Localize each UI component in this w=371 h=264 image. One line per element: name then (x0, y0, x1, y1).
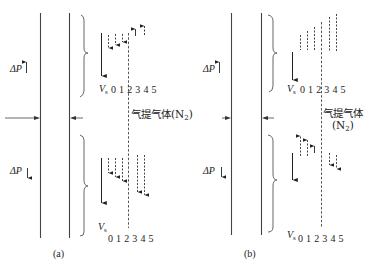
panel-b-caption: (b) (244, 249, 256, 259)
panel-a-upper-pressure-label: ΔP (10, 64, 22, 74)
panel-a-lower-velocity-label: Vs (98, 222, 107, 235)
panel-b-gas-formula: (N2) (332, 120, 354, 135)
panel-a-gas-label: 气提气体(N2) (131, 109, 193, 124)
panel-a-graphics (5, 13, 145, 238)
panel-b-upper-pressure-label: ΔP (203, 64, 215, 74)
panel-a-lower-pressure-label: ΔP (10, 166, 22, 176)
panel-b-upper-velocity-label: Vs (287, 84, 296, 97)
panel-b-lower-velocity-label: Vs (287, 230, 296, 243)
diagram-canvas (0, 0, 371, 264)
panel-a-upper-tick-labels: 0 1 2 3 4 5 (111, 85, 157, 95)
panel-a-upper-velocity-label: Vs (99, 84, 108, 97)
panel-a-caption: (a) (53, 249, 64, 259)
panel-b-lower-pressure-label: ΔP (203, 166, 215, 176)
panel-b-gas-label: 气提气体 (323, 108, 363, 119)
panel-b-lower-tick-labels: 0 1 2 3 4 5 (298, 234, 344, 244)
panel-b-graphics (220, 13, 337, 235)
panel-a-lower-tick-labels: 0 1 2 3 4 5 (108, 234, 154, 244)
panel-b-upper-tick-labels: 0 1 2 3 4 5 (300, 85, 346, 95)
